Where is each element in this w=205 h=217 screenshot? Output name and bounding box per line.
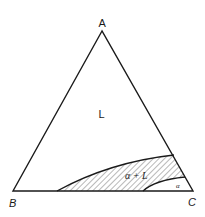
- alpha-plus-liquid-region: [57, 155, 185, 191]
- region-label-liquid: L: [99, 108, 105, 120]
- vertex-label-a: A: [99, 17, 107, 29]
- ternary-diagram: A B C L α + L α: [0, 0, 205, 217]
- vertex-label-b: B: [9, 197, 16, 209]
- vertex-label-c: C: [188, 196, 196, 208]
- region-label-alpha-plus-liquid: α + L: [125, 170, 148, 181]
- region-label-alpha: α: [176, 182, 180, 190]
